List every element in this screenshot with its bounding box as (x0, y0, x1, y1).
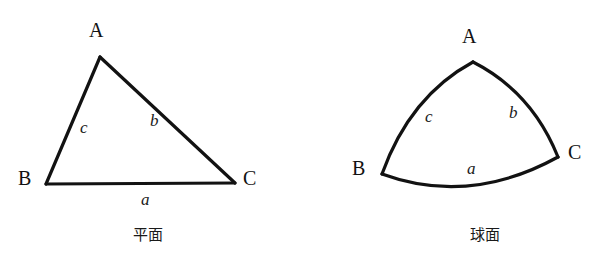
plane-vertex-label-c: C (243, 168, 256, 188)
plane-side-label-c: c (80, 119, 88, 136)
plane-side-label-b: b (150, 112, 159, 129)
spherical-vertex-label-c: C (568, 142, 581, 162)
plane-caption: 平面 (118, 228, 178, 243)
spherical-caption: 球面 (455, 228, 515, 243)
plane-side-b-stroke (100, 57, 235, 183)
geometry-figure: A B C a b c 平面 A B C a b c 球面 (0, 0, 594, 279)
plane-side-c-stroke (46, 57, 100, 184)
spherical-triangle-panel: A B C a b c 球面 (297, 0, 594, 279)
spherical-vertex-label-a: A (462, 26, 476, 46)
spherical-vertex-label-b: B (352, 158, 365, 178)
plane-vertex-label-b: B (18, 168, 31, 188)
spherical-side-label-b: b (509, 104, 518, 121)
plane-side-label-a: a (141, 191, 150, 208)
plane-side-a-stroke (46, 183, 235, 184)
spherical-triangle-drawing (297, 0, 594, 279)
spherical-side-label-a: a (467, 160, 476, 177)
plane-vertex-label-a: A (89, 20, 103, 40)
spherical-side-label-c: c (425, 108, 433, 125)
plane-triangle-panel: A B C a b c 平面 (0, 0, 297, 279)
